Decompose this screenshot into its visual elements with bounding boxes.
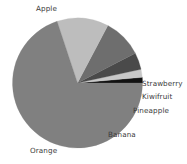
pie-slice-group: [13, 18, 143, 148]
pie-label-orange: Orange: [30, 146, 57, 155]
pie-label-banana: Banana: [108, 130, 136, 139]
pie-label-kiwifruit: Kiwifruit: [142, 92, 172, 101]
pie-label-apple: Apple: [36, 4, 57, 13]
pie-label-pineapple: Pineapple: [133, 106, 169, 115]
pie-label-strawberry: Strawberry: [142, 79, 183, 88]
pie-chart: Apple Strawberry Kiwifruit Pineapple Ban…: [0, 0, 187, 164]
